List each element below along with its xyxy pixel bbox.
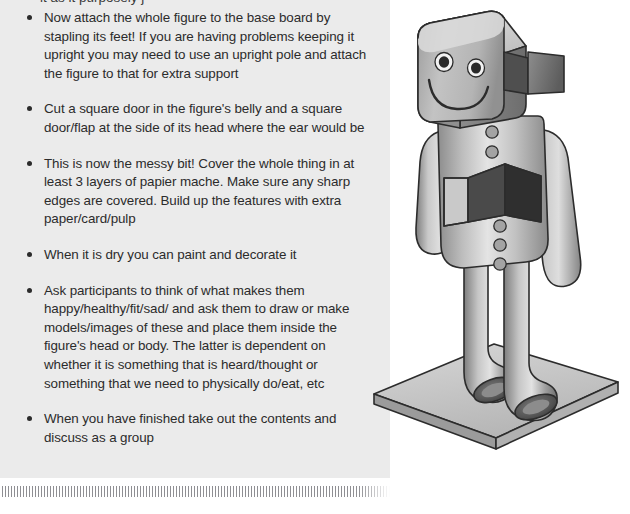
list-item-text: Now attach the whole figure to the base … [44, 10, 366, 81]
list-item-text: This is now the messy bit! Cover the who… [44, 156, 354, 227]
list-item: Ask participants to think of what makes … [44, 282, 376, 394]
list-item: When you have finished take out the cont… [44, 410, 376, 447]
ear-flap-door [504, 52, 564, 94]
bullet-icon [27, 288, 32, 293]
bullet-icon [27, 161, 32, 166]
page-root: it as it purposely j Now attach the whol… [0, 0, 630, 514]
list-item-text: When you have finished take out the cont… [44, 411, 336, 445]
hatched-divider-fade [2, 486, 390, 497]
clipped-top-line-text: it as it purposely j [40, 0, 144, 5]
bullet-icon [27, 15, 32, 20]
bullet-icon [27, 106, 32, 111]
bullet-icon [27, 416, 32, 421]
robot-illustration [368, 0, 630, 470]
robot-figure-svg [368, 0, 630, 470]
list-item-text: Ask participants to think of what makes … [44, 283, 349, 391]
list-item: When it is dry you can paint and decorat… [44, 246, 376, 265]
list-item-text: When it is dry you can paint and decorat… [44, 247, 296, 262]
clipped-top-line: it as it purposely j [0, 0, 390, 9]
list-item: Now attach the whole figure to the base … [44, 9, 376, 83]
eye-right [468, 59, 485, 77]
instruction-list: Now attach the whole figure to the base … [0, 9, 390, 464]
list-item: This is now the messy bit! Cover the who… [44, 155, 376, 229]
list-item: Cut a square door in the figure's belly … [44, 100, 376, 137]
list-item-text: Cut a square door in the figure's belly … [44, 101, 364, 135]
instructions-panel: it as it purposely j Now attach the whol… [0, 0, 390, 478]
bullet-icon [27, 252, 32, 257]
eye-left [435, 53, 453, 72]
